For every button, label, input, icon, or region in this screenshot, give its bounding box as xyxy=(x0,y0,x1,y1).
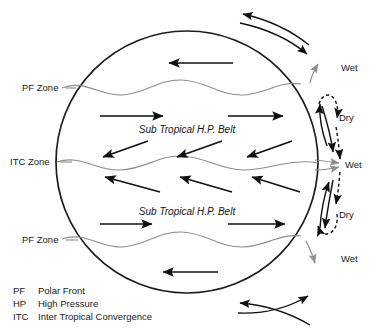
label-subtropical-belt-north: Sub Tropical H.P. Belt xyxy=(139,124,237,135)
wind-arrow-n-trade-1 xyxy=(103,141,148,157)
legend: PF Polar Front HP High Pressure ITC Inte… xyxy=(13,285,152,322)
label-dry-south: Dry xyxy=(339,209,354,220)
label-wet-equator: Wet xyxy=(345,159,362,170)
zone-line-pf-north xyxy=(62,80,301,95)
label-itc-zone: ITC Zone xyxy=(10,156,50,167)
wind-arrow-n-trade-3 xyxy=(247,141,292,157)
rotation-arc-top-inner xyxy=(240,23,307,54)
legend-abbr-pf: PF xyxy=(13,285,25,296)
legend-abbr-itc: ITC xyxy=(13,311,28,322)
zone-line-itc xyxy=(57,156,318,170)
cell-downdraft-south xyxy=(320,182,329,228)
label-pf-zone-south: PF Zone xyxy=(22,234,58,245)
cell-dashed-descend-south xyxy=(336,172,340,204)
globe-outline xyxy=(56,31,318,293)
legend-abbr-hp: HP xyxy=(13,298,26,309)
pressure-belt-diagram: PF Zone ITC Zone PF Zone Sub Tropical H.… xyxy=(0,0,382,332)
legend-meaning-pf: Polar Front xyxy=(38,285,85,296)
label-dry-north: Dry xyxy=(339,112,354,123)
cell-dashed-descend-north xyxy=(336,127,340,159)
rotation-arc-bottom-outer xyxy=(240,303,310,325)
cell-updraft-south xyxy=(325,180,333,228)
zone-line-pf-south xyxy=(62,232,301,247)
wind-arrow-s-trade-3 xyxy=(252,177,300,192)
legend-meaning-hp: High Pressure xyxy=(38,298,98,309)
wind-arrow-n-trade-2 xyxy=(177,141,222,157)
rotation-arc-top-outer xyxy=(243,14,309,45)
legend-meaning-itc: Inter Tropical Convergence xyxy=(38,311,152,322)
label-pf-zone-north: PF Zone xyxy=(22,82,58,93)
cell-downdraft-north xyxy=(322,106,333,152)
label-wet-north: Wet xyxy=(341,62,358,73)
wind-arrow-s-trade-2 xyxy=(180,177,232,192)
cell-riser-wet-north xyxy=(310,64,318,83)
diagram-canvas: PF Zone ITC Zone PF Zone Sub Tropical H.… xyxy=(0,0,382,332)
cell-riser-wet-south xyxy=(306,241,315,263)
label-wet-south: Wet xyxy=(341,253,358,264)
wind-arrow-s-trade-1 xyxy=(105,177,160,192)
label-subtropical-belt-south: Sub Tropical H.P. Belt xyxy=(139,206,237,217)
